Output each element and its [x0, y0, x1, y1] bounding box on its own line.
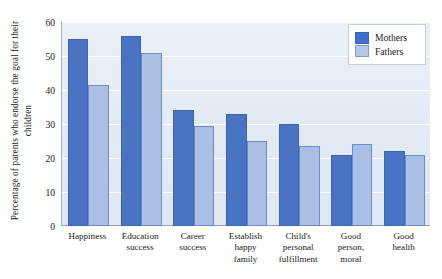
x-category-label: Careersuccess — [164, 231, 222, 254]
legend: Mothers Fathers — [348, 24, 426, 65]
x-category-label-line: Career — [164, 231, 222, 242]
bar-fathers — [247, 141, 268, 226]
y-tick-label: 10 — [29, 187, 55, 198]
x-category-label-line: Establish — [217, 231, 275, 242]
x-category-label-line: health — [375, 242, 433, 253]
legend-label-mothers: Mothers — [375, 32, 407, 43]
x-category-label-line: Happiness — [58, 231, 116, 242]
x-category-label: Goodperson,moral — [322, 231, 380, 265]
legend-item-mothers: Mothers — [355, 32, 419, 44]
y-tick-label: 50 — [29, 51, 55, 62]
x-category-label-line: success — [164, 242, 222, 253]
legend-item-fathers: Fathers — [355, 45, 419, 57]
legend-label-fathers: Fathers — [375, 46, 403, 57]
x-category-label-line: person, — [322, 242, 380, 253]
x-category-label-line: personal — [269, 242, 327, 253]
legend-swatch-mothers — [355, 32, 369, 44]
x-category-label-line: fulfillment — [269, 254, 327, 265]
y-tick-label: 40 — [29, 85, 55, 96]
x-category-label: Child'spersonalfulfillment — [269, 231, 327, 265]
bar-mothers — [173, 110, 194, 226]
bar-chart: Percentage of parents who endorse the go… — [0, 0, 442, 279]
x-category-label-line: success — [111, 242, 169, 253]
gridline — [62, 90, 430, 91]
x-category-label-line: Good — [375, 231, 433, 242]
bar-fathers — [88, 85, 109, 226]
y-tick-label: 0 — [29, 221, 55, 232]
x-category-label-line: happy — [217, 242, 275, 253]
x-category-label: Goodhealth — [375, 231, 433, 254]
bar-fathers — [352, 144, 373, 226]
bar-mothers — [331, 155, 352, 226]
y-tick-label: 60 — [29, 17, 55, 28]
x-category-label-line: moral — [322, 254, 380, 265]
bar-mothers — [279, 124, 300, 226]
x-category-label-line: family — [217, 254, 275, 265]
x-category-label: Happiness — [58, 231, 116, 242]
bar-fathers — [141, 53, 162, 226]
bar-fathers — [299, 146, 320, 226]
y-tick-label: 30 — [29, 119, 55, 130]
x-category-label-line: Good — [322, 231, 380, 242]
y-tick-label: 20 — [29, 153, 55, 164]
bar-mothers — [121, 36, 142, 226]
x-category-label-line: Education — [111, 231, 169, 242]
bar-mothers — [226, 114, 247, 226]
bar-mothers — [384, 151, 405, 226]
legend-swatch-fathers — [355, 45, 369, 57]
bar-fathers — [194, 126, 215, 226]
gridline — [62, 22, 430, 23]
bar-fathers — [405, 155, 426, 226]
x-category-label: Educationsuccess — [111, 231, 169, 254]
bar-mothers — [68, 39, 89, 226]
x-category-label: Establishhappyfamily — [217, 231, 275, 265]
x-category-label-line: Child's — [269, 231, 327, 242]
